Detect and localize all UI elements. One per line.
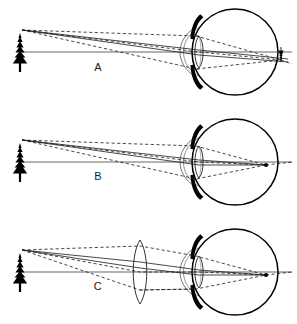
marginal-ray-bundle [22, 246, 292, 290]
figure-canvas: A B [0, 0, 297, 324]
principal-rays [22, 140, 266, 165]
object-tree [13, 143, 27, 182]
object-tree [13, 33, 27, 72]
object-tree [13, 253, 27, 292]
panel-c: C [13, 229, 292, 315]
retinal-image-inverted-tree [278, 47, 284, 63]
principal-rays [22, 250, 266, 275]
panel-a: A [13, 9, 292, 95]
panel-letter-c: C [94, 280, 102, 292]
retinal-image-point [264, 163, 268, 167]
optics-figure: A B [0, 0, 297, 324]
panel-letter-a: A [94, 61, 102, 73]
retinal-image-point [264, 273, 268, 277]
panel-letter-b: B [94, 170, 102, 182]
panel-b: B [13, 119, 292, 205]
